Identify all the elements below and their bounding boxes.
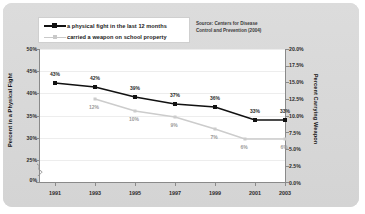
x-tickmark [135, 183, 136, 186]
legend-item-weapon[interactable]: carried a weapon on school property [43, 31, 185, 42]
source-line-1: Source: Centers for Disease [196, 20, 316, 27]
chart-screenshot: 43% 42% 39% 37% 36% 33% 33% 12% 10% 9% 7… [0, 0, 365, 214]
x-tickmark [255, 183, 256, 186]
x-tickmark [215, 183, 216, 186]
x-tickmark [285, 183, 286, 186]
x-tickmark [175, 183, 176, 186]
x-tick-label: 1991 [41, 190, 69, 196]
legend-label-fight: a physical fight in the last 12 months [67, 23, 167, 29]
x-tick-label: 1995 [121, 190, 149, 196]
x-tick-label: 2003 [271, 190, 299, 196]
legend-item-fight[interactable]: a physical fight in the last 12 months [43, 20, 185, 31]
x-tick-label: 1993 [81, 190, 109, 196]
chart-legend: a physical fight in the last 12 months c… [38, 17, 190, 43]
legend-marker-fight-icon [43, 21, 67, 31]
x-tick-label: 1997 [161, 190, 189, 196]
x-tickmark [55, 183, 56, 186]
source-line-2: Control and Prevention (2004) [196, 27, 316, 34]
legend-label-weapon: carried a weapon on school property [67, 34, 167, 40]
x-tickmark [95, 183, 96, 186]
y-axis-title: Percent in a Physical Fight [7, 75, 13, 147]
x-tick-label: 1999 [201, 190, 229, 196]
source-note: Source: Centers for Disease Control and … [196, 20, 316, 34]
x-tick-label: 2001 [241, 190, 269, 196]
legend-marker-weapon-icon [43, 32, 67, 42]
y2-axis-title: Percent Carrying Weapon [313, 71, 319, 147]
